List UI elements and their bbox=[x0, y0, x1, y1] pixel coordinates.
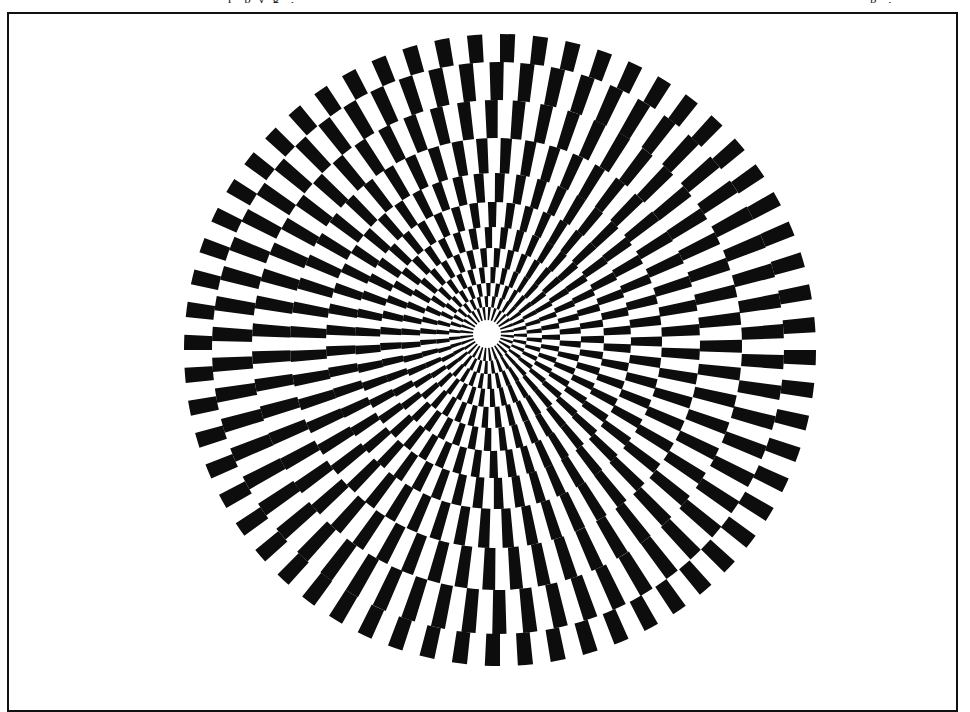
center-hole bbox=[473, 320, 501, 348]
stripe-rings bbox=[184, 34, 816, 666]
